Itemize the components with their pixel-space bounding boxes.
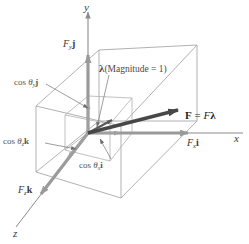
- cos-theta-y-unit: j: [35, 77, 38, 87]
- force-equation-lambda: λ: [210, 109, 215, 121]
- cos-theta-y-leader: [46, 84, 88, 108]
- figure-canvas: [0, 0, 249, 244]
- lambda-magnitude-note: (Magnitude = 1): [104, 64, 166, 74]
- lambda-magnitude-label: λ(Magnitude = 1): [99, 63, 167, 75]
- force-equation-label: F = Fλ: [185, 110, 216, 121]
- force-equation-F: F: [185, 109, 192, 121]
- z-axis-label: z: [13, 228, 17, 239]
- cos-theta-x-label: cos θxi: [79, 161, 103, 172]
- cos-theta-z-label: cos θzk: [3, 137, 29, 148]
- cos-theta-x-unit: i: [100, 160, 103, 170]
- cos-theta-y-label: cos θyj: [14, 78, 38, 89]
- cos-theta-y-prefix: cos: [14, 77, 28, 87]
- vector-components-figure: y x z Fyj Fxi Fzk cos θyj cos θzk cos θx…: [0, 0, 249, 244]
- fz-label-unit: k: [27, 184, 33, 195]
- force-equation-eq: =: [192, 109, 204, 121]
- fy-label-unit: j: [72, 38, 75, 49]
- cos-theta-z-prefix: cos: [3, 136, 17, 146]
- cos-theta-z-unit: k: [24, 136, 29, 146]
- cos-theta-x-leader: [100, 139, 111, 159]
- fz-component-label: Fzk: [18, 185, 32, 196]
- fy-component-label: Fyj: [63, 39, 75, 50]
- x-axis-label: x: [234, 133, 239, 144]
- cos-theta-x-prefix: cos: [79, 160, 93, 170]
- y-axis-label: y: [84, 2, 89, 13]
- fx-label-unit: i: [196, 137, 199, 148]
- outer-box-back-face: [99, 45, 197, 121]
- fx-component-label: Fxi: [187, 138, 199, 149]
